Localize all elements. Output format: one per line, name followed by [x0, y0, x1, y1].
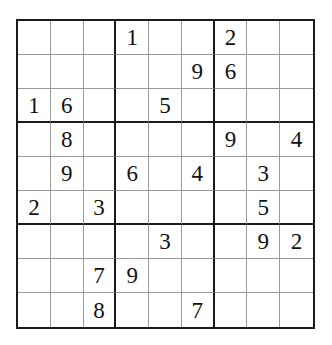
given-cell[interactable]: 6: [215, 55, 248, 89]
empty-cell[interactable]: [149, 191, 182, 225]
empty-cell[interactable]: [280, 259, 313, 293]
empty-cell[interactable]: [280, 55, 313, 89]
given-cell[interactable]: 6: [51, 89, 84, 123]
empty-cell[interactable]: [84, 55, 117, 89]
given-cell[interactable]: 2: [18, 191, 51, 225]
empty-cell[interactable]: [51, 191, 84, 225]
empty-cell[interactable]: [215, 225, 248, 259]
empty-cell[interactable]: [215, 191, 248, 225]
given-cell[interactable]: 9: [51, 157, 84, 191]
empty-cell[interactable]: [116, 225, 149, 259]
empty-cell[interactable]: [84, 157, 117, 191]
empty-cell[interactable]: [182, 89, 215, 123]
given-cell[interactable]: 5: [247, 191, 280, 225]
empty-cell[interactable]: [18, 157, 51, 191]
empty-cell[interactable]: [51, 293, 84, 327]
empty-cell[interactable]: [149, 55, 182, 89]
given-cell[interactable]: 9: [116, 259, 149, 293]
empty-cell[interactable]: [18, 123, 51, 157]
given-cell[interactable]: 5: [149, 89, 182, 123]
given-cell[interactable]: 9: [247, 225, 280, 259]
given-cell[interactable]: 7: [182, 293, 215, 327]
given-cell[interactable]: 3: [247, 157, 280, 191]
empty-cell[interactable]: [149, 157, 182, 191]
empty-cell[interactable]: [51, 225, 84, 259]
given-cell[interactable]: 9: [182, 55, 215, 89]
given-cell[interactable]: 3: [149, 225, 182, 259]
empty-cell[interactable]: [18, 21, 51, 55]
empty-cell[interactable]: [149, 259, 182, 293]
empty-cell[interactable]: [116, 89, 149, 123]
empty-cell[interactable]: [18, 293, 51, 327]
empty-cell[interactable]: [116, 293, 149, 327]
given-cell[interactable]: 4: [182, 157, 215, 191]
empty-cell[interactable]: [280, 293, 313, 327]
empty-cell[interactable]: [182, 191, 215, 225]
empty-cell[interactable]: [51, 55, 84, 89]
empty-cell[interactable]: [247, 259, 280, 293]
empty-cell[interactable]: [280, 191, 313, 225]
empty-cell[interactable]: [18, 259, 51, 293]
empty-cell[interactable]: [84, 21, 117, 55]
empty-cell[interactable]: [215, 157, 248, 191]
empty-cell[interactable]: [247, 55, 280, 89]
empty-cell[interactable]: [182, 259, 215, 293]
empty-cell[interactable]: [116, 123, 149, 157]
empty-cell[interactable]: [18, 225, 51, 259]
empty-cell[interactable]: [182, 225, 215, 259]
empty-cell[interactable]: [84, 225, 117, 259]
empty-cell[interactable]: [247, 21, 280, 55]
given-cell[interactable]: 1: [116, 21, 149, 55]
given-cell[interactable]: 4: [280, 123, 313, 157]
given-cell[interactable]: 6: [116, 157, 149, 191]
empty-cell[interactable]: [280, 89, 313, 123]
empty-cell[interactable]: [280, 157, 313, 191]
given-cell[interactable]: 9: [215, 123, 248, 157]
given-cell[interactable]: 8: [51, 123, 84, 157]
sudoku-board: 129616589496432353927987: [16, 19, 315, 329]
given-cell[interactable]: 2: [215, 21, 248, 55]
empty-cell[interactable]: [149, 293, 182, 327]
given-cell[interactable]: 1: [18, 89, 51, 123]
empty-cell[interactable]: [215, 89, 248, 123]
given-cell[interactable]: 2: [280, 225, 313, 259]
empty-cell[interactable]: [84, 89, 117, 123]
empty-cell[interactable]: [84, 123, 117, 157]
empty-cell[interactable]: [18, 55, 51, 89]
empty-cell[interactable]: [182, 21, 215, 55]
empty-cell[interactable]: [116, 55, 149, 89]
empty-cell[interactable]: [215, 259, 248, 293]
given-cell[interactable]: 8: [84, 293, 117, 327]
empty-cell[interactable]: [51, 259, 84, 293]
empty-cell[interactable]: [247, 123, 280, 157]
empty-cell[interactable]: [149, 21, 182, 55]
empty-cell[interactable]: [247, 89, 280, 123]
given-cell[interactable]: 7: [84, 259, 117, 293]
empty-cell[interactable]: [280, 21, 313, 55]
empty-cell[interactable]: [51, 21, 84, 55]
empty-cell[interactable]: [247, 293, 280, 327]
empty-cell[interactable]: [215, 293, 248, 327]
empty-cell[interactable]: [116, 191, 149, 225]
empty-cell[interactable]: [149, 123, 182, 157]
given-cell[interactable]: 3: [84, 191, 117, 225]
empty-cell[interactable]: [182, 123, 215, 157]
